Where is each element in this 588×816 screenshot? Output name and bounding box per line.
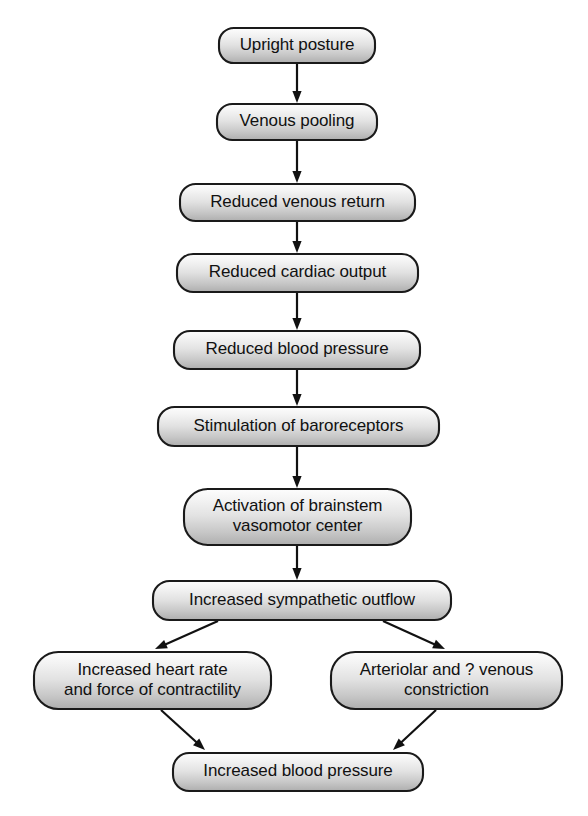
flow-arrow <box>155 621 218 649</box>
node-label: constriction <box>404 680 489 699</box>
arrow-head-icon <box>292 394 301 406</box>
flow-node-reduced-cardiac-output[interactable]: Reduced cardiac output <box>177 254 418 292</box>
node-label: Reduced blood pressure <box>205 339 388 358</box>
arrow-head-icon <box>292 241 301 253</box>
flow-node-increased-heart-rate-and-force-of-contractility[interactable]: Increased heart rateand force of contrac… <box>34 652 271 709</box>
flow-node-reduced-blood-pressure[interactable]: Reduced blood pressure <box>174 331 420 369</box>
node-label: vasomotor center <box>233 516 363 535</box>
flow-node-reduced-venous-return[interactable]: Reduced venous return <box>180 184 415 221</box>
flow-node-increased-blood-pressure[interactable]: Increased blood pressure <box>173 753 423 791</box>
arrow-head-icon <box>432 640 445 649</box>
flowchart-diagram: Upright postureVenous poolingReduced ven… <box>0 0 588 816</box>
flow-node-arteriolar-and-venous-constriction[interactable]: Arteriolar and ? venousconstriction <box>331 652 562 709</box>
node-label: Activation of brainstem <box>213 496 383 515</box>
node-label: Stimulation of baroreceptors <box>194 416 404 435</box>
node-label: Arteriolar and ? venous <box>360 660 533 679</box>
node-label: Upright posture <box>240 35 355 54</box>
flow-node-venous-pooling[interactable]: Venous pooling <box>217 104 377 140</box>
flow-arrow <box>292 64 301 103</box>
arrow-head-icon <box>292 91 301 103</box>
arrow-shaft <box>161 710 198 743</box>
arrow-shaft <box>164 621 218 645</box>
node-label: and force of contractility <box>64 680 242 699</box>
flow-node-upright-posture[interactable]: Upright posture <box>219 28 375 63</box>
flow-arrow <box>292 370 301 406</box>
arrow-head-icon <box>292 568 301 580</box>
flow-arrow <box>161 710 205 750</box>
flow-arrow <box>292 222 301 253</box>
flow-arrow <box>393 710 436 750</box>
flow-arrow <box>292 546 301 580</box>
arrow-shaft <box>400 710 436 743</box>
node-label: Increased heart rate <box>77 660 227 679</box>
arrow-head-icon <box>155 640 168 649</box>
arrow-head-icon <box>292 318 301 330</box>
node-label: Increased sympathetic outflow <box>189 590 416 609</box>
flow-node-increased-sympathetic-outflow[interactable]: Increased sympathetic outflow <box>153 581 451 620</box>
node-label: Increased blood pressure <box>203 761 392 780</box>
flowchart-canvas: Upright postureVenous poolingReduced ven… <box>0 0 588 816</box>
node-label: Reduced venous return <box>210 192 385 211</box>
node-label: Venous pooling <box>240 111 355 130</box>
arrow-shaft <box>383 621 436 645</box>
flow-arrow <box>292 141 301 183</box>
arrow-head-icon <box>292 171 301 183</box>
flow-arrow <box>292 447 301 488</box>
flow-node-stimulation-of-baroreceptors[interactable]: Stimulation of baroreceptors <box>158 407 439 446</box>
flow-arrow <box>292 293 301 330</box>
arrow-head-icon <box>292 476 301 488</box>
node-label: Reduced cardiac output <box>209 262 387 281</box>
flow-node-activation-of-brainstem-vasomotor-center[interactable]: Activation of brainstemvasomotor center <box>184 489 411 545</box>
flow-arrow <box>383 621 445 649</box>
